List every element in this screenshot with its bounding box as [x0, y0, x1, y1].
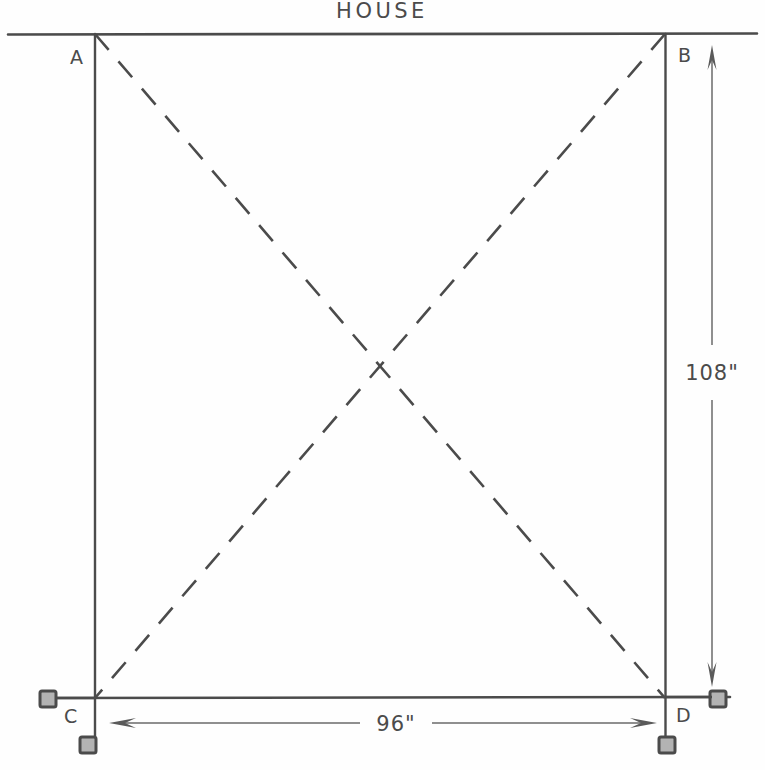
drawing-title: HOUSE — [336, 0, 428, 23]
house-wall-line — [8, 34, 757, 35]
sill-line — [45, 697, 730, 698]
paper-background — [0, 0, 765, 770]
corner-label-a: A — [70, 46, 83, 68]
anchor-d-bottom — [659, 737, 675, 753]
anchor-square — [710, 691, 726, 707]
anchor-c-bottom — [80, 737, 96, 753]
anchor-d-right — [710, 691, 726, 707]
corner-label-c: C — [64, 705, 77, 727]
dimension-horizontal-label: 96" — [376, 712, 415, 736]
anchor-c-left — [40, 691, 56, 707]
anchor-square — [659, 737, 675, 753]
corner-label-b: B — [678, 44, 691, 66]
anchor-square — [40, 691, 56, 707]
corner-label-d: D — [676, 704, 691, 726]
anchor-square — [80, 737, 96, 753]
dimension-vertical-label: 108" — [685, 361, 739, 385]
diagram-canvas: HOUSE A B C D 108" 96" — [0, 0, 765, 770]
house-brace-drawing: HOUSE A B C D 108" 96" — [0, 0, 765, 770]
